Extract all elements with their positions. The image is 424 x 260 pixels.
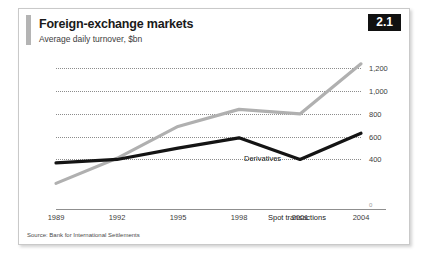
figure-subtitle: Average daily turnover, $bn (39, 34, 142, 44)
x-axis-tick-2001: 2001 (292, 213, 309, 222)
x-axis-tick-1995: 1995 (170, 213, 187, 222)
y-axis-tick-800: 800 (369, 109, 382, 118)
plot-area: Derivatives Spot transactions (56, 57, 361, 205)
x-axis-tick-1989: 1989 (48, 213, 65, 222)
x-axis-tick-2004: 2004 (353, 213, 370, 222)
page-title: Foreign-exchange markets (39, 17, 193, 31)
x-axis-tick-1992: 1992 (109, 213, 126, 222)
x-axis-tick-1998: 1998 (231, 213, 248, 222)
x-axis-baseline (56, 209, 386, 210)
chart-figure-panel: Foreign-exchange markets Average daily t… (18, 8, 410, 245)
figure-header: Foreign-exchange markets Average daily t… (19, 9, 409, 51)
y-axis-tick-1,200: 1,200 (369, 64, 388, 73)
series-label-derivatives: Derivatives (244, 154, 281, 163)
y-axis-tick-1,000: 1,000 (369, 87, 388, 96)
y-axis-tick-400: 400 (369, 155, 382, 164)
figure-number-badge: 2.1 (368, 14, 401, 31)
series-line-derivatives (56, 64, 361, 184)
y-axis-tick-0: 0 (369, 202, 372, 208)
title-accent-bar (26, 15, 31, 45)
y-axis-tick-600: 600 (369, 132, 382, 141)
chart-lines-svg (56, 57, 361, 205)
series-line-spot-transactions (56, 133, 361, 163)
figure-source-note: Source: Bank for International Settlemen… (27, 232, 140, 238)
